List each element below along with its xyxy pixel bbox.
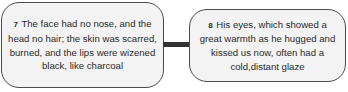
node-box-8: 8 His eyes, which showed a great warmth …	[189, 9, 346, 82]
node-number-7: 7	[13, 20, 17, 29]
node-content-7: The face had no nose, and the head no ha…	[8, 18, 157, 71]
node-text-7: 7 The face had no nose, and the head no …	[2, 17, 163, 72]
connector-line	[163, 42, 190, 47]
node-number-8: 8	[208, 21, 212, 30]
node-text-8: 8 His eyes, which showed a great warmth …	[190, 18, 345, 73]
node-box-7: 7 The face had no nose, and the head no …	[1, 2, 164, 88]
node-content-8: His eyes, which showed a great warmth as…	[200, 19, 335, 72]
